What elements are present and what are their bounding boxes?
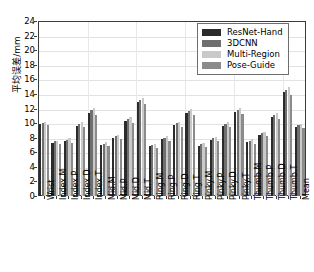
legend-swatch	[202, 29, 221, 36]
x-tick-label: Ring.D	[182, 173, 190, 200]
y-tick-mark	[34, 21, 37, 22]
x-tick-mark	[105, 196, 106, 199]
x-tick-label: Ring.P	[169, 175, 177, 200]
legend-swatch	[202, 51, 221, 58]
x-tick-label: Thumb.P	[267, 165, 275, 200]
x-tick-label: Thumb.D	[279, 163, 287, 200]
x-tick-label: Index.M	[60, 169, 68, 200]
y-tick-label: 14	[1, 90, 35, 98]
y-tick-label: 10	[1, 119, 35, 127]
legend-swatch	[202, 62, 221, 69]
x-tick-label: Ring.T	[194, 175, 202, 200]
x-axis-labels: WristIndex.MIndex.PIndex.DIndex.TMid.MMi…	[38, 198, 306, 272]
legend-item: Multi-Region	[202, 49, 283, 60]
x-tick-mark	[300, 196, 301, 199]
y-tick-label: 2	[1, 177, 35, 185]
x-tick-mark	[44, 196, 45, 199]
x-tick-label: Mid.P	[121, 178, 129, 200]
y-tick-mark	[34, 79, 37, 80]
y-tick-mark	[34, 36, 37, 37]
x-tick-mark	[117, 196, 118, 199]
gridline-horizontal	[39, 124, 305, 125]
y-axis-ticks: 024681012141618202224	[0, 21, 35, 196]
y-tick-mark	[34, 94, 37, 95]
x-tick-label: Mid.D	[133, 177, 141, 200]
x-tick-mark	[178, 196, 179, 199]
x-tick-mark	[166, 196, 167, 199]
y-tick-label: 18	[1, 61, 35, 69]
x-tick-label: Index.P	[72, 171, 80, 200]
legend: ResNet-Hand3DCNNMulti-RegionPose-Guide	[197, 23, 289, 75]
x-tick-mark	[81, 196, 82, 199]
gridline-horizontal	[39, 153, 305, 154]
y-tick-mark	[34, 196, 37, 197]
x-tick-label: Index.T	[96, 171, 104, 200]
y-tick-label: 22	[1, 32, 35, 40]
x-tick-mark	[154, 196, 155, 199]
y-tick-label: 8	[1, 134, 35, 142]
x-tick-label: Ring.M	[157, 173, 165, 200]
x-tick-label: Wrist	[48, 180, 56, 200]
legend-item: ResNet-Hand	[202, 27, 283, 38]
x-tick-mark	[142, 196, 143, 199]
x-tick-label: Mid.T	[145, 178, 153, 200]
x-tick-label: Index.D	[84, 169, 92, 200]
x-tick-label: Mean	[303, 178, 311, 200]
x-tick-mark	[202, 196, 203, 199]
y-tick-mark	[34, 152, 37, 153]
x-tick-mark	[68, 196, 69, 199]
legend-label: ResNet-Hand	[227, 28, 283, 37]
legend-label: Pose-Guide	[227, 61, 275, 70]
y-tick-mark	[34, 123, 37, 124]
y-tick-label: 16	[1, 75, 35, 83]
legend-label: 3DCNN	[227, 39, 258, 48]
x-tick-label: Pinky.D	[230, 171, 238, 200]
x-tick-mark	[129, 196, 130, 199]
x-tick-mark	[215, 196, 216, 199]
y-tick-mark	[34, 50, 37, 51]
x-tick-mark	[251, 196, 252, 199]
x-tick-label: Mid.M	[109, 176, 117, 200]
y-tick-label: 12	[1, 105, 35, 113]
gridline-vertical	[136, 22, 137, 195]
x-tick-mark	[227, 196, 228, 199]
y-tick-label: 20	[1, 46, 35, 54]
x-tick-label: Pinky.M	[206, 171, 214, 200]
x-tick-label: Pinky.T	[243, 173, 251, 200]
x-tick-mark	[263, 196, 264, 199]
x-tick-mark	[239, 196, 240, 199]
legend-item: 3DCNN	[202, 38, 283, 49]
legend-item: Pose-Guide	[202, 60, 283, 71]
y-tick-mark	[34, 65, 37, 66]
bar-chart: 平均误差/mm 024681012141618202224 WristIndex…	[0, 0, 314, 272]
x-tick-label: Thumb.T	[291, 165, 299, 200]
x-tick-mark	[288, 196, 289, 199]
y-tick-label: 6	[1, 148, 35, 156]
x-tick-mark	[276, 196, 277, 199]
y-tick-mark	[34, 167, 37, 168]
x-tick-mark	[93, 196, 94, 199]
gridline-horizontal	[39, 139, 305, 140]
x-tick-mark	[190, 196, 191, 199]
gridline-horizontal	[39, 95, 305, 96]
y-tick-mark	[34, 138, 37, 139]
y-tick-mark	[34, 181, 37, 182]
y-tick-mark	[34, 109, 37, 110]
legend-swatch	[202, 40, 221, 47]
gridline-horizontal	[39, 110, 305, 111]
gridline-vertical	[185, 22, 186, 195]
y-tick-label: 24	[1, 17, 35, 25]
x-tick-label: Pinky.P	[218, 173, 226, 200]
gridline-horizontal	[39, 80, 305, 81]
legend-label: Multi-Region	[227, 50, 280, 59]
x-tick-label: Thumb.M	[255, 163, 263, 200]
y-tick-label: 4	[1, 163, 35, 171]
y-tick-label: 0	[1, 192, 35, 200]
x-tick-mark	[56, 196, 57, 199]
